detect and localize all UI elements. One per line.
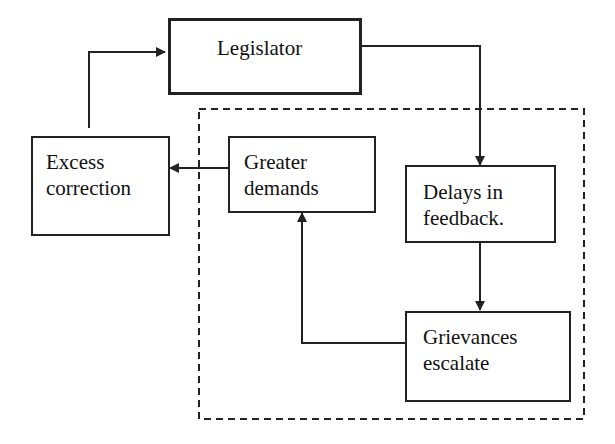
node-greater-demands: Greater demands [228,136,376,213]
edge-legislator-to-delays [361,46,480,165]
node-label: escalate [423,350,517,376]
node-label: Delays in [423,179,504,205]
node-label: correction [46,175,131,201]
edge-excess-to-legislator [89,52,165,128]
node-label: Legislator [217,35,302,61]
node-legislator: Legislator [168,18,362,95]
node-delays-in-feedback: Delays in feedback. [405,165,556,243]
edge-grievances-to-demands [302,213,405,343]
node-label: feedback. [423,205,504,231]
node-label: demands [244,175,319,201]
node-label: Excess [46,149,131,175]
node-grievances-escalate: Grievances escalate [405,311,571,402]
node-label: Grievances [423,324,517,350]
node-label: Greater [244,149,319,175]
node-excess-correction: Excess correction [31,136,170,236]
